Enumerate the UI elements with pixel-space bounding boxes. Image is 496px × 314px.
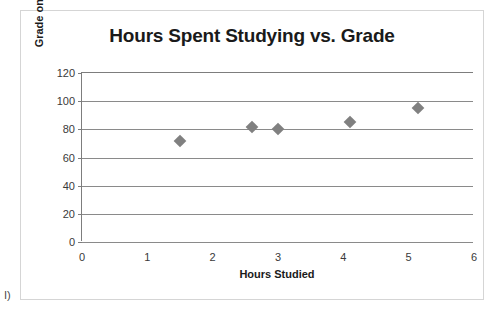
y-tick-mark — [78, 101, 82, 102]
chart-frame: Hours Spent Studying vs. Grade Grade on … — [20, 10, 484, 300]
y-tick-label: 20 — [63, 208, 75, 220]
x-tick-label: 5 — [406, 251, 412, 263]
y-tick-label: 0 — [69, 236, 75, 248]
y-tick-label: 80 — [63, 123, 75, 135]
y-gridline — [82, 242, 473, 243]
x-tick-label: 1 — [144, 251, 150, 263]
y-tick-mark — [78, 214, 82, 215]
y-gridline — [82, 186, 473, 187]
x-tick-label: 3 — [275, 251, 281, 263]
x-axis-title: Hours Studied — [81, 268, 473, 280]
data-point-marker — [174, 134, 187, 147]
y-tick-mark — [78, 186, 82, 187]
y-tick-label: 100 — [57, 95, 75, 107]
data-point-marker — [343, 116, 356, 129]
y-gridline — [82, 101, 473, 102]
data-point-marker — [272, 123, 285, 136]
y-tick-label: 60 — [63, 152, 75, 164]
y-tick-mark — [78, 129, 82, 130]
y-gridline — [82, 158, 473, 159]
y-tick-label: 40 — [63, 180, 75, 192]
y-tick-mark — [78, 158, 82, 159]
x-tick-label: 2 — [210, 251, 216, 263]
x-tick-label: 4 — [340, 251, 346, 263]
data-point-marker — [245, 120, 258, 133]
plot-area: 0204060801001200123456 — [81, 72, 473, 241]
x-tick-label: 6 — [471, 251, 477, 263]
x-tick-label: 0 — [79, 251, 85, 263]
data-point-marker — [412, 102, 425, 115]
chart-title: Hours Spent Studying vs. Grade — [21, 25, 483, 47]
corner-note: I) — [4, 289, 11, 301]
y-axis-title: Grade on Exam — [33, 0, 45, 67]
y-tick-mark — [78, 242, 82, 243]
y-gridline — [82, 214, 473, 215]
y-tick-mark — [78, 73, 82, 74]
y-tick-label: 120 — [57, 67, 75, 79]
